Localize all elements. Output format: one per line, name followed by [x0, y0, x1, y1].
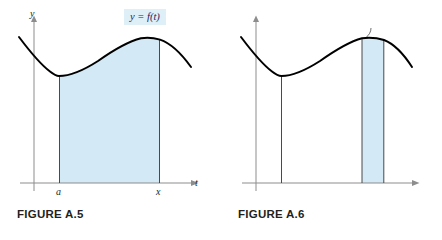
plot-a5 [0, 0, 221, 240]
figure-caption-a5: FIGURE A.5 [17, 208, 84, 220]
plot-a6 [221, 0, 442, 240]
tick-label-x-a5: x [156, 186, 160, 197]
label-leader-line-a6 [366, 28, 371, 38]
figure-panel-a6: y = f(t) y t a x x + Δx FIGURE A.6 [221, 0, 442, 240]
figure-caption-a6: FIGURE A.6 [238, 208, 305, 220]
y-axis-arrow-a6 [253, 16, 259, 23]
tick-label-a-a5: a [56, 186, 61, 197]
shaded-region-a5 [59, 38, 160, 183]
shaded-region-a6 [362, 38, 384, 183]
x-axis-label-a5: t [195, 177, 198, 188]
curve-label-a5: y = f(t) [124, 9, 166, 25]
function-curve-a6 [241, 37, 412, 76]
figure-panel-a5: y = f(t) y t a x FIGURE A.5 [0, 0, 221, 240]
x-axis-arrow-a6 [412, 180, 420, 186]
y-axis-label-a5: y [30, 8, 34, 19]
